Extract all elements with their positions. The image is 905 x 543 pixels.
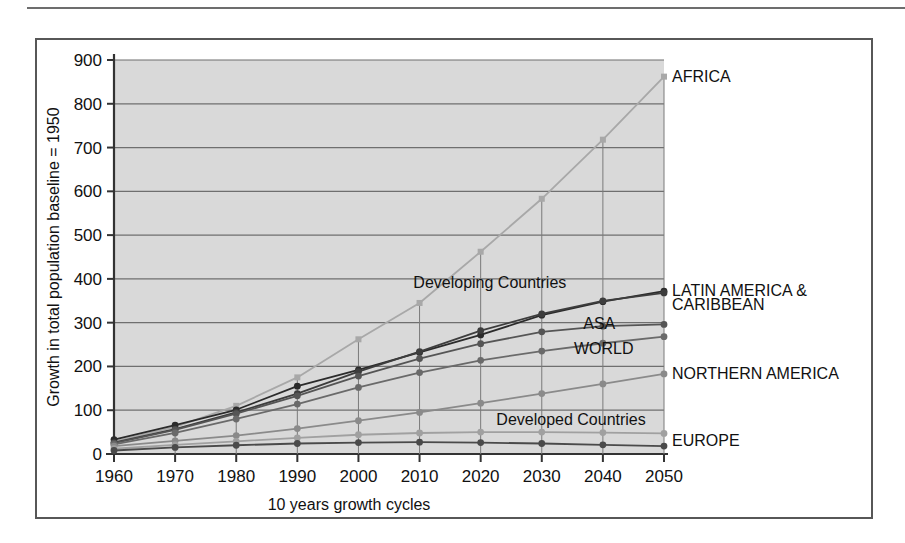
series-point-marker xyxy=(233,442,240,449)
series-point-marker xyxy=(477,357,484,364)
series-point-marker xyxy=(599,441,606,448)
series-point-marker xyxy=(477,400,484,407)
series-annotation-label: NORTHERN AMERICA xyxy=(672,365,839,382)
series-point-marker xyxy=(355,417,362,424)
series-annotation-label: ASA xyxy=(583,315,615,332)
x-axis-title: 10 years growth cycles xyxy=(268,496,431,513)
series-point-marker xyxy=(294,440,301,447)
series-point-marker xyxy=(538,429,545,436)
series-point-marker xyxy=(599,381,606,388)
y-axis-tick-label: 100 xyxy=(74,401,102,420)
page-root: 0100200300400500600700800900196019701980… xyxy=(0,0,905,543)
x-axis-tick-label: 2050 xyxy=(645,467,683,486)
series-point-marker xyxy=(417,300,423,306)
series-point-marker xyxy=(416,430,423,437)
x-axis-tick-label: 1970 xyxy=(156,467,194,486)
x-axis-tick-label: 1960 xyxy=(95,467,133,486)
series-point-marker xyxy=(538,440,545,447)
series-annotation-label: Developing Countries xyxy=(413,274,566,291)
figure-frame: 0100200300400500600700800900196019701980… xyxy=(35,38,873,519)
x-axis-tick-label: 2000 xyxy=(340,467,378,486)
x-axis-tick-label: 2030 xyxy=(523,467,561,486)
series-point-marker xyxy=(416,348,423,355)
series-annotation-label: AFRICA xyxy=(672,68,731,85)
population-growth-line-chart: 0100200300400500600700800900196019701980… xyxy=(37,40,871,517)
top-horizontal-rule xyxy=(27,7,905,9)
y-axis-tick-label: 700 xyxy=(74,139,102,158)
series-point-marker xyxy=(661,430,668,437)
series-point-marker xyxy=(661,289,668,296)
series-point-marker xyxy=(355,439,362,446)
series-point-marker xyxy=(538,390,545,397)
series-point-marker xyxy=(477,340,484,347)
series-point-marker xyxy=(416,439,423,446)
series-point-marker xyxy=(294,401,301,408)
series-point-marker xyxy=(294,425,301,432)
series-point-marker xyxy=(233,416,240,423)
x-axis-tick-label: 2040 xyxy=(584,467,622,486)
series-point-marker xyxy=(661,74,667,80)
series-point-marker xyxy=(661,443,668,450)
series-point-marker xyxy=(355,373,362,380)
x-axis-tick-label: 1980 xyxy=(217,467,255,486)
plot-background xyxy=(114,60,664,454)
series-annotation-label: WORLD xyxy=(574,340,634,357)
y-axis-tick-label: 0 xyxy=(93,445,102,464)
series-point-marker xyxy=(478,249,484,255)
series-annotation-label: CARIBBEAN xyxy=(672,296,764,313)
series-point-marker xyxy=(111,447,118,454)
y-axis-tick-label: 200 xyxy=(74,357,102,376)
y-axis-tick-label: 600 xyxy=(74,182,102,201)
y-axis-tick-label: 900 xyxy=(74,51,102,70)
series-point-marker xyxy=(416,355,423,362)
series-point-marker xyxy=(477,439,484,446)
x-axis-tick-label: 2020 xyxy=(462,467,500,486)
y-axis-tick-label: 300 xyxy=(74,314,102,333)
series-point-marker xyxy=(600,137,606,143)
series-point-marker xyxy=(661,333,668,340)
y-axis-tick-label: 400 xyxy=(74,270,102,289)
series-annotation-label: EUROPE xyxy=(672,432,740,449)
series-point-marker xyxy=(355,431,362,438)
series-point-marker xyxy=(538,311,545,318)
series-point-marker xyxy=(416,369,423,376)
series-point-marker xyxy=(294,374,300,380)
series-point-marker xyxy=(294,392,301,399)
x-axis-tick-label: 2010 xyxy=(401,467,439,486)
y-axis-tick-label: 800 xyxy=(74,95,102,114)
series-point-marker xyxy=(172,444,179,451)
series-point-marker xyxy=(538,328,545,335)
series-point-marker xyxy=(539,196,545,202)
series-point-marker xyxy=(172,430,179,437)
y-axis-title: Growth in total population baseline = 19… xyxy=(45,107,62,406)
series-point-marker xyxy=(355,384,362,391)
series-point-marker xyxy=(599,429,606,436)
series-point-marker xyxy=(477,429,484,436)
series-point-marker xyxy=(661,370,668,377)
series-point-marker xyxy=(661,321,668,328)
series-annotation-label: Developed Countries xyxy=(496,411,645,428)
series-point-marker xyxy=(294,383,301,390)
series-point-marker xyxy=(538,348,545,355)
series-point-marker xyxy=(599,297,606,304)
y-axis-tick-label: 500 xyxy=(74,226,102,245)
x-axis-tick-label: 1990 xyxy=(278,467,316,486)
series-point-marker xyxy=(416,409,423,416)
series-point-marker xyxy=(477,327,484,334)
series-point-marker xyxy=(355,336,361,342)
